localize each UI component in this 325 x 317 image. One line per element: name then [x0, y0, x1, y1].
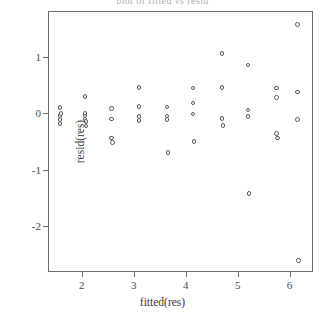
x-tick: [186, 272, 187, 277]
scatter-plot-figure: plot of fitted vs resid fitted(res) resi…: [0, 0, 325, 317]
x-tick-label: 3: [131, 279, 137, 291]
data-point: [246, 108, 251, 113]
y-tick-label: -2: [32, 220, 41, 232]
y-tick-label: 1: [36, 51, 42, 63]
x-tick-label: 5: [235, 279, 241, 291]
x-tick-label: 4: [183, 279, 189, 291]
data-point: [295, 90, 300, 95]
y-tick-label: 0: [36, 107, 42, 119]
y-tick: [43, 113, 48, 114]
data-point: [247, 191, 252, 196]
data-point: [246, 63, 251, 68]
data-point: [275, 136, 280, 141]
x-tick-label: 2: [79, 279, 85, 291]
x-axis-label: fitted(res): [0, 296, 325, 308]
x-tick: [134, 272, 135, 277]
x-tick-label: 6: [287, 279, 293, 291]
data-point: [274, 95, 279, 100]
x-tick: [290, 272, 291, 277]
y-tick: [43, 170, 48, 171]
data-point: [221, 123, 226, 128]
data-point: [246, 114, 251, 119]
y-tick-label: -1: [32, 164, 41, 176]
data-point: [220, 51, 225, 56]
data-point: [295, 22, 300, 27]
y-tick: [43, 226, 48, 227]
data-point: [220, 116, 225, 121]
chart-title: plot of fitted vs resid: [0, 0, 325, 4]
y-tick: [43, 57, 48, 58]
data-point: [220, 85, 225, 90]
x-tick: [82, 272, 83, 277]
data-point: [296, 258, 301, 263]
data-point: [295, 117, 300, 122]
y-axis-label: resid(res): [0, 11, 211, 272]
data-point: [274, 86, 279, 91]
x-tick: [238, 272, 239, 277]
